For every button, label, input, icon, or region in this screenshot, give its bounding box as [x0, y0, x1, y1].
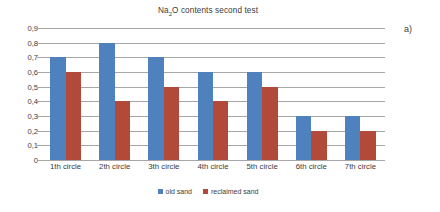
y-axis-tick-label: 0,2	[4, 126, 38, 135]
x-axis-tick-label: 5th circle	[238, 162, 287, 171]
x-axis-tick-label: 7th circle	[336, 162, 385, 171]
legend-label: reclaimed sand	[211, 188, 258, 195]
x-axis-tick-label: 3th circle	[139, 162, 188, 171]
bar	[148, 57, 163, 160]
bar	[262, 87, 277, 160]
chart-figure: Na2O contents second test a) 0,90,80,70,…	[0, 0, 440, 212]
bar	[164, 87, 179, 160]
y-axis-tick-label: 0,3	[4, 112, 38, 121]
chart-title-suffix: O contents second test	[172, 6, 258, 15]
gridline	[41, 43, 385, 44]
legend-entry: reclaimed sand	[203, 188, 258, 195]
bar	[360, 131, 375, 160]
bar	[311, 131, 326, 160]
bar	[213, 101, 228, 160]
y-axis-tick-label: 0,9	[4, 24, 38, 33]
y-axis-tick-label: 0,6	[4, 68, 38, 77]
gridline	[41, 87, 385, 88]
x-axis-tick-label: 4th circle	[188, 162, 237, 171]
x-axis-tick-label: 2th circle	[90, 162, 139, 171]
gridline	[41, 160, 385, 161]
bar	[66, 72, 81, 160]
legend-label: old sand	[166, 188, 192, 195]
legend-swatch-icon	[158, 189, 163, 194]
legend-swatch-icon	[203, 189, 208, 194]
bar	[247, 72, 262, 160]
bar	[99, 43, 114, 160]
bar	[198, 72, 213, 160]
x-axis-tick-label: 6th circle	[287, 162, 336, 171]
legend-entry: old sand	[158, 188, 192, 195]
gridline	[41, 57, 385, 58]
chart-title: Na2O contents second test	[30, 6, 386, 15]
gridline	[41, 28, 385, 29]
gridline	[41, 72, 385, 73]
y-axis-tick-label: 0,4	[4, 97, 38, 106]
bar	[296, 116, 311, 160]
y-axis-tick-label: 0,8	[4, 38, 38, 47]
chart-legend: old sandreclaimed sand	[30, 188, 386, 195]
x-axis: 1th circle2th circle3th circle4th circle…	[41, 162, 385, 176]
x-axis-tick-label: 1th circle	[41, 162, 90, 171]
panel-label: a)	[404, 24, 412, 34]
y-axis-tick-label: 0,7	[4, 53, 38, 62]
bar	[345, 116, 360, 160]
chart-title-prefix: Na	[158, 6, 169, 15]
y-axis: 0,90,80,70,60,50,40,30,20,10	[0, 28, 38, 160]
y-axis-tick-label: 0,5	[4, 82, 38, 91]
bar	[115, 101, 130, 160]
plot-area	[41, 28, 385, 160]
y-axis-tick-label: 0,1	[4, 141, 38, 150]
y-axis-tick-label: 0	[4, 156, 38, 165]
bar	[50, 57, 65, 160]
